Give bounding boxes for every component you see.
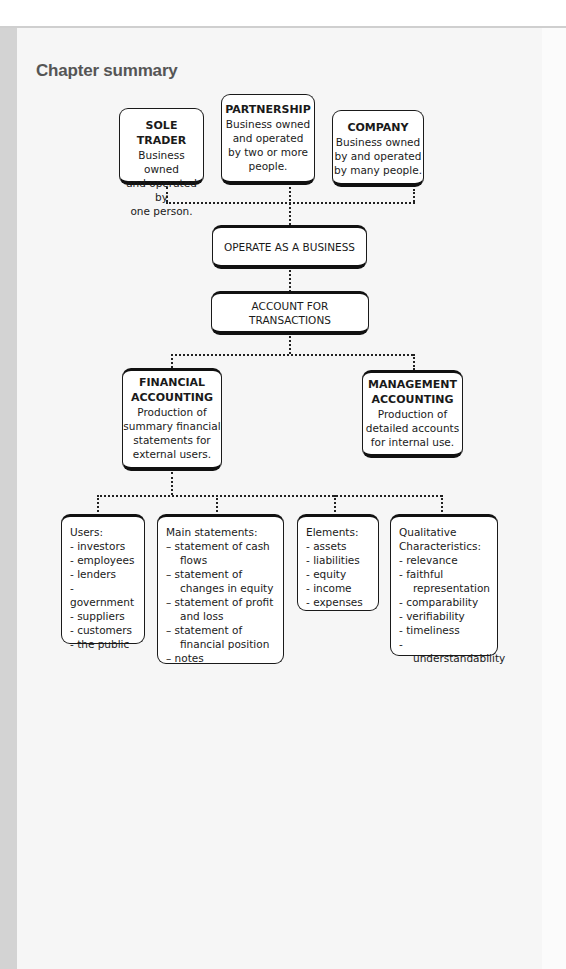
right-margin (542, 28, 566, 969)
list-item: – statement of profit and loss (166, 595, 275, 623)
company-heading: COMPANY (333, 120, 423, 135)
users-list: - investors - employees - lenders - gove… (70, 539, 136, 651)
account-label: ACCOUNT FOR TRANSACTIONS (212, 299, 368, 327)
financial-line: external users. (123, 447, 221, 461)
elements-box: Elements: - assets - liabilities - equit… (297, 514, 379, 611)
list-item: - understandability (399, 637, 489, 665)
qualitative-heading: Characteristics: (399, 539, 489, 553)
main-statements-box: Main statements: – statement of cash flo… (157, 514, 284, 664)
connector (413, 354, 415, 370)
qualitative-box: Qualitative Characteristics: - relevance… (390, 514, 498, 656)
sole-trader-line: one person. (120, 204, 203, 218)
list-item: - investors (70, 539, 136, 553)
list-item: – statement of changes in equity (166, 567, 275, 595)
partnership-line: Business owned (222, 117, 314, 131)
list-item: - assets (306, 539, 370, 553)
list-item: - relevance (399, 553, 489, 567)
financial-line: summary financial (123, 419, 221, 433)
qualitative-list: - relevance - faithful representation - … (399, 553, 489, 665)
company-line: by many people. (333, 163, 423, 177)
elements-heading: Elements: (306, 525, 370, 539)
connector (334, 495, 336, 512)
company-line: by and operated (333, 149, 423, 163)
list-item: - the public (70, 637, 136, 651)
connector (97, 495, 99, 512)
list-item: - timeliness (399, 623, 489, 637)
financial-line: Production of (123, 405, 221, 419)
management-accounting-box: MANAGEMENT ACCOUNTING Production of deta… (362, 370, 463, 458)
sole-trader-box: SOLE TRADER Business owned and operated … (119, 108, 204, 185)
page-title: Chapter summary (36, 61, 178, 81)
sole-trader-heading: SOLE TRADER (120, 118, 203, 148)
list-item: - expenses (306, 595, 370, 609)
account-box: ACCOUNT FOR TRANSACTIONS (211, 291, 369, 335)
operate-label: OPERATE AS A BUSINESS (224, 240, 355, 254)
sole-trader-line: and operated by (120, 176, 203, 204)
users-box: Users: - investors - employees - lenders… (61, 514, 145, 644)
left-margin-strip (0, 28, 17, 969)
list-item: - income (306, 581, 370, 595)
list-item: - employees (70, 553, 136, 567)
partnership-box: PARTNERSHIP Business owned and operated … (221, 94, 315, 185)
list-item: – notes (166, 651, 275, 665)
company-box: COMPANY Business owned by and operated b… (332, 110, 424, 187)
statements-list: – statement of cash flows – statement of… (166, 539, 275, 665)
list-item: - comparability (399, 595, 489, 609)
connector (166, 187, 168, 202)
connector (171, 472, 173, 495)
financial-heading: FINANCIAL (123, 375, 221, 390)
financial-heading: ACCOUNTING (123, 390, 221, 405)
connector (441, 495, 443, 512)
users-heading: Users: (70, 525, 136, 539)
company-line: Business owned (333, 135, 423, 149)
list-item: - suppliers (70, 609, 136, 623)
operate-box: OPERATE AS A BUSINESS (212, 225, 367, 269)
partnership-heading: PARTNERSHIP (222, 102, 314, 117)
qualitative-heading: Qualitative (399, 525, 489, 539)
list-item: - customers (70, 623, 136, 637)
connector (289, 270, 291, 292)
financial-accounting-box: FINANCIAL ACCOUNTING Production of summa… (122, 368, 222, 471)
partnership-line: and operated (222, 131, 314, 145)
statements-heading: Main statements: (166, 525, 275, 539)
list-item: - verifiability (399, 609, 489, 623)
management-heading: MANAGEMENT (363, 377, 462, 392)
management-line: detailed accounts (363, 421, 462, 435)
connector (166, 202, 415, 204)
connector (289, 187, 291, 225)
connector (97, 495, 442, 497)
sole-trader-line: Business owned (120, 148, 203, 176)
list-item: - lenders (70, 567, 136, 581)
financial-line: statements for (123, 433, 221, 447)
partnership-line: people. (222, 159, 314, 173)
management-line: for internal use. (363, 435, 462, 449)
connector (413, 189, 415, 202)
top-band (0, 0, 566, 26)
connector (171, 354, 413, 356)
list-item: - faithful representation (399, 567, 489, 595)
elements-list: - assets - liabilities - equity - income… (306, 539, 370, 609)
management-line: Production of (363, 407, 462, 421)
management-heading: ACCOUNTING (363, 392, 462, 407)
connector (171, 354, 173, 368)
list-item: - equity (306, 567, 370, 581)
connector (289, 336, 291, 354)
connector (216, 495, 218, 512)
partnership-line: by two or more (222, 145, 314, 159)
list-item: – statement of financial position (166, 623, 275, 651)
list-item: - government (70, 581, 136, 609)
list-item: - liabilities (306, 553, 370, 567)
list-item: – statement of cash flows (166, 539, 275, 567)
